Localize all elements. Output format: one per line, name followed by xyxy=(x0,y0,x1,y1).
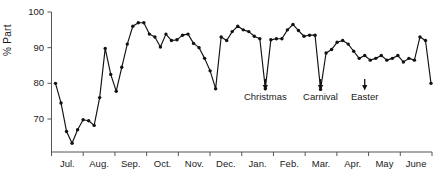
chart-series-markers xyxy=(54,21,433,145)
annotation-label: Easter xyxy=(320,91,410,102)
y-tick-label: 80 xyxy=(18,77,44,88)
y-tick-label: 100 xyxy=(18,6,44,17)
chart-container: % Part 100908070 Jul.Aug.Sep.Oct.Nov.Dec… xyxy=(0,0,438,174)
x-tick-label: June xyxy=(394,158,438,169)
chart-series-line xyxy=(56,23,432,144)
y-tick-label: 70 xyxy=(18,113,44,124)
annotation-arrows xyxy=(263,79,368,91)
y-tick-label: 90 xyxy=(18,42,44,53)
y-axis-title: % Part xyxy=(2,24,13,56)
chart-axes xyxy=(48,12,433,156)
line-chart-plot xyxy=(0,0,438,174)
